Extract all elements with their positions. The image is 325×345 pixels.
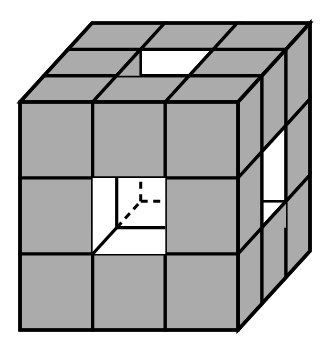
figure-container: Three-by-three cube assembly with remove… [0, 0, 325, 345]
front-cell-r0-c0 [20, 102, 93, 178]
front-cell-r2-c1 [93, 254, 166, 330]
front-cell-r0-c1 [93, 102, 166, 178]
front-hole-interior [93, 178, 166, 254]
cube-diagram: Three-by-three cube assembly with remove… [0, 0, 325, 345]
front-cell-r1-c2 [165, 178, 238, 254]
front-cell-r1-c0 [20, 178, 93, 254]
front-cell-r0-c2 [165, 102, 238, 178]
front-cell-r2-c0 [20, 254, 93, 330]
front-cell-r2-c2 [165, 254, 238, 330]
